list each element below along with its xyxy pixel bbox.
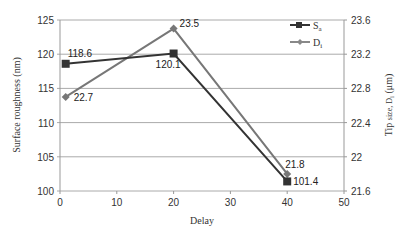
series-di: 22.723.521.8 (62, 18, 305, 178)
square-marker-icon (296, 22, 302, 28)
y2-tick-label: 22.4 (351, 118, 371, 129)
y2-axis-ticks: 21.62222.422.823.223.6 (344, 15, 371, 197)
diamond-marker-icon (297, 39, 303, 45)
x-axis-ticks: 01020304050 (57, 191, 350, 208)
data-label: 101.4 (293, 176, 318, 187)
y-tick-label: 125 (37, 15, 54, 26)
y-tick-label: 120 (37, 49, 54, 60)
y2-tick-label: 22.8 (351, 83, 371, 94)
y-tick-label: 100 (37, 186, 54, 197)
y2-tick-label: 23.6 (351, 15, 371, 26)
y-axis-title: Surface roughness (nm) (11, 57, 23, 153)
data-label: 21.8 (285, 159, 305, 170)
x-tick-label: 30 (225, 197, 237, 208)
legend: Sa Di (290, 20, 323, 50)
series-group: 22.723.521.8118.6120.1101.4 (62, 18, 319, 188)
legend-item-sa: Sa (290, 20, 323, 33)
y-tick-label: 115 (38, 83, 54, 94)
y-axis-ticks: 100105110115120125 (37, 15, 54, 197)
data-label: 120.1 (156, 59, 181, 70)
line-chart: 01020304050 100105110115120125 21.62222.… (0, 0, 411, 246)
x-tick-label: 50 (338, 197, 350, 208)
x-tick-label: 0 (57, 197, 63, 208)
y2-tick-label: 21.6 (351, 186, 371, 197)
svg-text:Di: Di (313, 37, 322, 50)
data-label: 23.5 (180, 18, 200, 29)
series-line (66, 54, 288, 182)
square-marker-icon (62, 60, 70, 68)
legend-item-di: Di (290, 37, 322, 50)
svg-text:Sa: Sa (313, 20, 323, 33)
data-label: 118.6 (68, 48, 93, 59)
x-axis-title: Delay (190, 215, 214, 226)
x-tick-label: 40 (282, 197, 294, 208)
y2-tick-label: 22 (351, 152, 363, 163)
y-tick-label: 110 (38, 118, 54, 129)
square-marker-icon (170, 50, 178, 58)
x-tick-label: 20 (168, 197, 180, 208)
data-label: 22.7 (74, 92, 94, 103)
x-tick-label: 10 (111, 197, 123, 208)
y-tick-label: 105 (37, 152, 54, 163)
series-sa: 118.6120.1101.4 (62, 48, 319, 188)
y2-tick-label: 23.2 (351, 49, 371, 60)
y2-axis-title: Tip size, Di (μm) (383, 74, 396, 137)
square-marker-icon (283, 177, 291, 185)
